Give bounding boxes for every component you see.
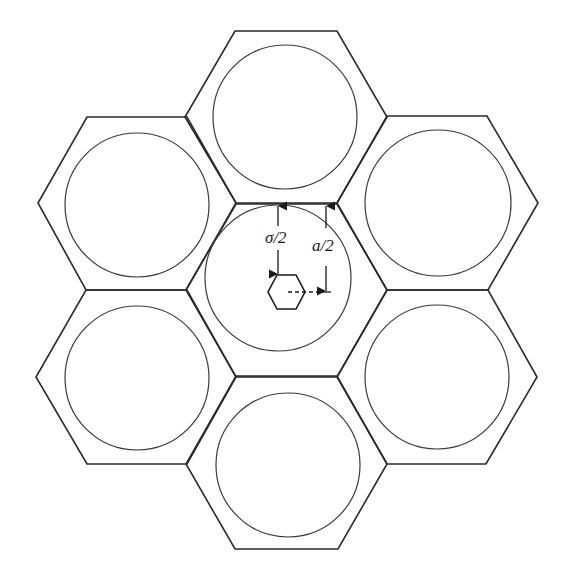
cell-top <box>185 31 387 203</box>
hexagonal-packing-diagram <box>0 0 574 580</box>
cell-upper-right <box>337 116 538 290</box>
cell-circle <box>65 306 209 450</box>
cell-circle <box>213 45 357 189</box>
hexagon-outline <box>337 290 537 464</box>
cell-circle <box>216 393 360 537</box>
cell-circle <box>205 205 351 351</box>
cell-lower-left <box>36 290 236 464</box>
cell-bottom <box>186 376 387 549</box>
cell-circle <box>65 133 209 277</box>
cell-lower-right <box>337 290 537 464</box>
a-half-label: a/2 <box>311 237 335 255</box>
sigma-half-label: σ/2 <box>264 229 288 247</box>
hexagon-outline <box>36 290 236 464</box>
cell-circle <box>365 305 509 449</box>
small-hexagon <box>268 275 305 309</box>
cell-circle <box>365 130 511 276</box>
hexagon-outline <box>337 116 538 290</box>
